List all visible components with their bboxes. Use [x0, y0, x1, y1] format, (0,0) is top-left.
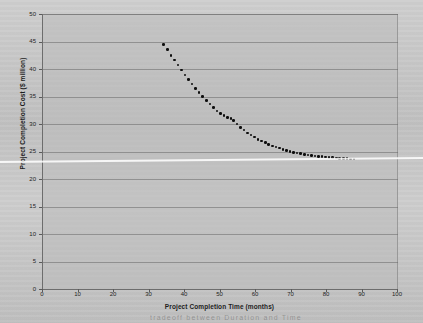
y-tick-mark [39, 207, 42, 208]
data-point [271, 145, 274, 148]
data-point [239, 126, 242, 129]
data-point [278, 147, 281, 150]
x-tick-mark [255, 289, 256, 292]
data-point [212, 106, 215, 109]
x-tick-mark [291, 289, 292, 292]
data-point [314, 155, 317, 158]
data-point [184, 74, 187, 77]
y-tick-label: 10 [14, 231, 36, 237]
y-tick-mark [39, 97, 42, 98]
data-point [170, 54, 173, 57]
data-point [219, 112, 222, 115]
x-tick-mark [326, 289, 327, 292]
x-tick-mark [149, 289, 150, 292]
y-tick-label: 5 [14, 258, 36, 264]
page-cut-caption: tradeoff between Duration and Time [150, 314, 423, 323]
y-tick-mark [39, 14, 42, 15]
data-point [282, 148, 285, 151]
x-tick-mark [220, 289, 221, 292]
y-tick-mark [39, 179, 42, 180]
y-tick-mark [39, 69, 42, 70]
data-point [243, 129, 246, 132]
y-tick-mark [39, 124, 42, 125]
data-point [257, 138, 260, 141]
data-point [198, 91, 201, 94]
data-point [226, 116, 229, 119]
scanned-page: 05101520253035404550 0102030405060708090… [0, 0, 423, 323]
x-tick-mark [362, 289, 363, 292]
data-point [194, 87, 197, 90]
data-point [216, 110, 219, 113]
data-point [173, 59, 176, 62]
data-point [264, 141, 267, 144]
data-point [250, 134, 253, 137]
data-point [303, 153, 306, 156]
data-point [246, 132, 249, 135]
data-point [187, 78, 190, 81]
data-point [275, 146, 278, 149]
data-point [205, 99, 208, 102]
data-point [267, 143, 270, 146]
data-point [191, 83, 194, 86]
data-series-points [43, 14, 398, 289]
data-point [296, 152, 299, 155]
data-point [232, 119, 235, 122]
y-tick-mark [39, 262, 42, 263]
data-point [223, 114, 226, 117]
chart-plot-area [42, 14, 398, 290]
x-tick-mark [397, 289, 398, 292]
data-point [236, 123, 239, 126]
data-point [209, 103, 212, 106]
x-tick-mark [78, 289, 79, 292]
data-point [177, 64, 180, 67]
data-point [260, 140, 263, 143]
y-tick-label: 50 [14, 11, 36, 17]
data-point [180, 69, 183, 72]
data-point [292, 151, 295, 154]
x-tick-mark [113, 289, 114, 292]
data-point [310, 154, 313, 157]
data-point [201, 95, 204, 98]
data-point [166, 48, 169, 51]
y-tick-label: 15 [14, 203, 36, 209]
data-point [299, 152, 302, 155]
data-point [162, 43, 165, 46]
x-axis-title: Project Completion Time (months) [42, 303, 397, 310]
data-point [253, 136, 256, 139]
x-tick-mark [42, 289, 43, 292]
y-tick-mark [39, 234, 42, 235]
y-tick-mark [39, 152, 42, 153]
x-tick-mark [184, 289, 185, 292]
y-tick-mark [39, 42, 42, 43]
data-point [289, 150, 292, 153]
data-point [285, 149, 288, 152]
data-point [307, 154, 310, 157]
